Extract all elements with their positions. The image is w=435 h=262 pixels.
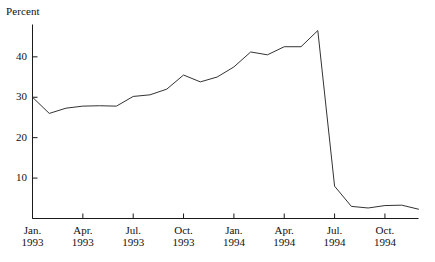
x-tick-month: Jul.: [106, 224, 160, 236]
x-tick-month: Oct.: [358, 224, 412, 236]
x-axis-tick-label: Jul.1993: [106, 224, 160, 248]
chart-axes: [33, 25, 419, 219]
x-tick-month: Jan.: [6, 224, 60, 236]
x-tick-month: Oct.: [157, 224, 211, 236]
x-axis-tick-label: Jan.1993: [6, 224, 60, 248]
x-tick-month: Apr.: [257, 224, 311, 236]
x-tick-year: 1994: [358, 236, 412, 248]
y-axis-tick-label: 40: [5, 51, 27, 62]
x-tick-year: 1993: [106, 236, 160, 248]
x-tick-month: Jul.: [308, 224, 362, 236]
x-axis-tick-label: Oct.1994: [358, 224, 412, 248]
x-axis-tick-label: Apr.1993: [56, 224, 110, 248]
chart-figure: Percent 10203040Jan.1993Apr.1993Jul.1993…: [0, 0, 435, 262]
x-axis-tick-label: Oct.1993: [157, 224, 211, 248]
x-tick-year: 1994: [257, 236, 311, 248]
y-axis-tick-label: 10: [5, 172, 27, 183]
x-tick-year: 1993: [6, 236, 60, 248]
data-series-line: [33, 31, 419, 210]
x-tick-year: 1994: [207, 236, 261, 248]
x-tick-year: 1993: [157, 236, 211, 248]
x-tick-year: 1993: [56, 236, 110, 248]
x-tick-month: Apr.: [56, 224, 110, 236]
x-axis-tick-label: Jul.1994: [308, 224, 362, 248]
x-axis-tick-label: Jan.1994: [207, 224, 261, 248]
y-axis-tick-label: 20: [5, 132, 27, 143]
y-axis-tick-label: 30: [5, 91, 27, 102]
x-tick-month: Jan.: [207, 224, 261, 236]
x-tick-year: 1994: [308, 236, 362, 248]
x-axis-tick-label: Apr.1994: [257, 224, 311, 248]
